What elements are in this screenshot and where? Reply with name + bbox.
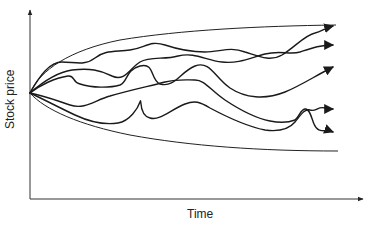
- price-path-1: [30, 26, 333, 93]
- axes: [30, 10, 363, 199]
- price-path-5: [30, 93, 333, 131]
- price-paths: [30, 26, 333, 132]
- lower-envelope: [30, 93, 338, 151]
- envelope-curves: [30, 25, 338, 151]
- stock-price-paths-diagram: [0, 0, 375, 227]
- y-axis-label: Stock price: [3, 70, 17, 129]
- price-path-2: [30, 45, 333, 93]
- x-axis-label: Time: [187, 207, 213, 221]
- upper-envelope: [30, 25, 336, 93]
